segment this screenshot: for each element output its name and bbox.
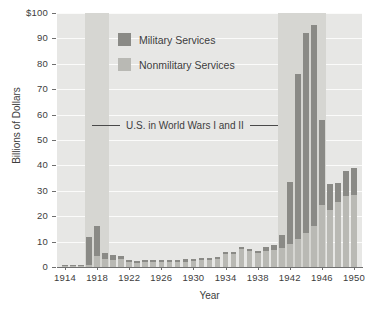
bar-group [247,249,253,268]
bar-group [327,184,333,267]
y-tick-mark [52,64,56,65]
y-tick-mark [52,89,56,90]
bar-segment-nonmilitary [207,260,213,267]
y-axis-title: Billions of Dollars [11,66,22,186]
bar-segment-military [183,259,189,261]
bar-segment-nonmilitary [287,244,293,267]
bar-group [255,251,261,268]
bar-segment-military [175,260,181,262]
bar-group [271,245,277,267]
bar-group [150,260,156,267]
bar-segment-nonmilitary [199,260,205,267]
y-tick-mark [52,38,56,39]
bar-segment-nonmilitary [263,251,269,267]
x-axis-title: Year [57,290,362,301]
bar-segment-nonmilitary [295,239,301,267]
bar-segment-military [199,258,205,260]
y-tick-mark [52,140,56,141]
bar-segment-military [239,247,245,250]
bar-group [263,247,269,267]
y-tick-mark [52,216,56,217]
bar-segment-military [263,247,269,250]
y-tick-label: 10 [4,236,48,247]
bar-group [159,260,165,267]
bar-group [351,168,357,267]
bar-group [207,258,213,267]
bar-segment-nonmilitary [110,260,116,267]
bar-group [126,260,132,267]
bar-group [183,259,189,267]
bar-group [167,260,173,267]
x-tick-label: 1950 [334,272,374,283]
bar-segment-nonmilitary [223,254,229,267]
bar-segment-military [295,74,301,239]
bar-group [279,235,285,267]
bar-group [86,237,92,267]
bar-segment-military [319,120,325,205]
bar-segment-military [351,168,357,195]
bar-segment-military [70,265,76,266]
bar-segment-military [126,260,132,262]
bar-segment-nonmilitary [94,256,100,267]
x-axis-line [57,267,363,268]
bar-segment-military [78,265,84,266]
bar-group [239,247,245,267]
bar-segment-military [167,260,173,262]
bar-segment-military [62,265,68,266]
x-tick-mark [193,267,194,270]
bar-segment-military [159,260,165,262]
bar-segment-nonmilitary [311,226,317,267]
bar-segment-military [255,251,261,254]
x-tick-mark [65,267,66,270]
bar-segment-military [247,249,253,252]
bar-segment-nonmilitary [343,196,349,267]
bar-segment-nonmilitary [239,249,245,267]
legend-swatch-military-icon [118,33,131,46]
x-tick-mark [258,267,259,270]
bar-segment-nonmilitary [247,251,253,267]
bar-segment-military [279,235,285,248]
y-tick-label: 20 [4,210,48,221]
legend-item-military: Military Services [118,33,235,46]
y-tick-mark [52,242,56,243]
bar-segment-military [94,226,100,257]
bar-segment-nonmilitary [271,250,277,268]
bar-segment-military [215,257,221,259]
bar-segment-military [134,261,140,263]
bar-segment-military [110,255,116,259]
bar-segment-military [102,253,108,259]
bar-group [110,255,116,267]
bar-group [199,258,205,267]
y-tick-label: $100 [4,7,48,18]
bar-group [303,33,309,267]
bar-segment-nonmilitary [231,254,237,267]
bar-group [102,253,108,268]
bar-group [223,252,229,267]
x-tick-mark [322,267,323,270]
x-tick-mark [129,267,130,270]
x-tick-mark [290,267,291,270]
legend-label-military: Military Services [139,34,215,46]
bar-segment-military [118,256,124,259]
annotation-rule-right [250,125,278,126]
y-tick-label: 90 [4,32,48,43]
bar-segment-military [207,258,213,260]
war-annotation: U.S. in World Wars I and II [92,120,317,131]
caption-sliver [14,0,214,5]
bar-segment-military [150,260,156,262]
bar-segment-military [327,184,333,209]
y-tick-mark [52,13,56,14]
bar-segment-nonmilitary [351,195,357,267]
bar-group [191,259,197,267]
bar-segment-military [142,260,148,262]
y-tick-mark [52,115,56,116]
bar-segment-military [343,171,349,196]
bar-group [118,256,124,267]
bar-group [287,182,293,267]
bar-group [142,260,148,267]
bar-segment-military [335,183,341,202]
bar-segment-military [303,33,309,232]
bar-segment-nonmilitary [118,259,124,267]
annotation-label: U.S. in World Wars I and II [120,120,250,131]
bar-segment-military [191,259,197,261]
